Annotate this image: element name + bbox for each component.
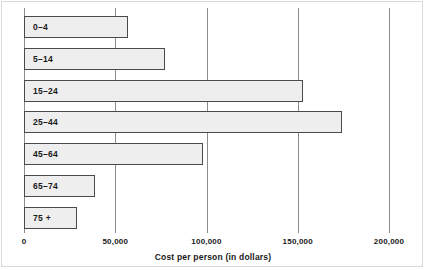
bar-15-24: 15–24 (24, 80, 303, 102)
bar-category-label: 45–64 (25, 149, 58, 159)
x-tick-100000: 100,000 (191, 237, 221, 246)
bar-45-64: 45–64 (24, 143, 203, 165)
bar-category-label: 25–44 (25, 117, 58, 127)
x-tick-200000: 200,000 (374, 237, 404, 246)
bar-75: 75 + (24, 207, 77, 229)
bar-category-label: 65–74 (25, 181, 58, 191)
x-tick-150000: 150,000 (283, 237, 313, 246)
bar-category-label: 5–14 (25, 54, 53, 64)
bar-25-44: 25–44 (24, 111, 342, 133)
bar-chart: 0–45–1415–2425–4445–6465–7475 + 050,0001… (0, 0, 426, 270)
x-tick-0: 0 (22, 237, 27, 246)
gridline-200000 (389, 8, 390, 233)
bar-category-label: 75 + (25, 213, 51, 223)
plot-area: 0–45–1415–2425–4445–6465–7475 + 050,0001… (0, 0, 426, 270)
bar-0-4: 0–4 (24, 16, 128, 38)
bar-category-label: 15–24 (25, 86, 58, 96)
x-axis-title: Cost per person (in dollars) (0, 252, 426, 262)
bar-65-74: 65–74 (24, 175, 95, 197)
bar-category-label: 0–4 (25, 22, 48, 32)
x-tick-50000: 50,000 (102, 237, 128, 246)
bar-5-14: 5–14 (24, 48, 165, 70)
